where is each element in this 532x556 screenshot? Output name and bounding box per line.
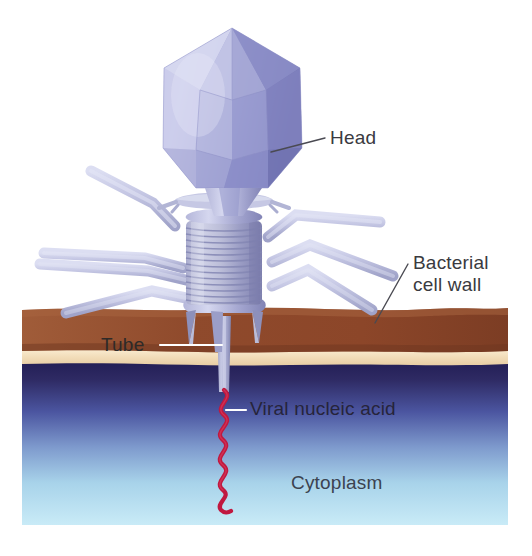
label-bacterial-cell-wall-line1: Bacterial bbox=[413, 252, 489, 273]
label-bacterial-cell-wall: Bacterialcell wall bbox=[413, 252, 489, 297]
label-bacterial-cell-wall-line2: cell wall bbox=[413, 274, 481, 295]
label-tube: Tube bbox=[101, 334, 144, 356]
bacterial-cell-wall-layer bbox=[22, 308, 508, 353]
cytoplasm-region bbox=[22, 363, 508, 525]
label-head: Head bbox=[330, 127, 376, 149]
label-viral-nucleic-acid: Viral nucleic acid bbox=[250, 398, 396, 420]
tail-sheath bbox=[186, 221, 262, 305]
label-cytoplasm: Cytoplasm bbox=[291, 472, 383, 494]
